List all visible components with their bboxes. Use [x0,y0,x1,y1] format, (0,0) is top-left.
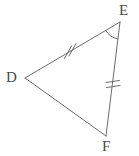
vertex-label-e: E [119,3,128,18]
angle-mark-e-arc [106,30,118,39]
side-de-tick-1 [65,46,72,59]
side-df-line [25,78,106,136]
side-ef-tick-2 [107,86,121,88]
vertex-label-f: F [102,139,110,154]
side-de-tick-2 [69,44,76,57]
side-ef-tick-marks [106,81,120,88]
vertex-label-d: D [6,70,17,85]
geometry-figure-triangle-def: D E F [0,0,139,156]
triangle-drawing-canvas [0,0,139,156]
